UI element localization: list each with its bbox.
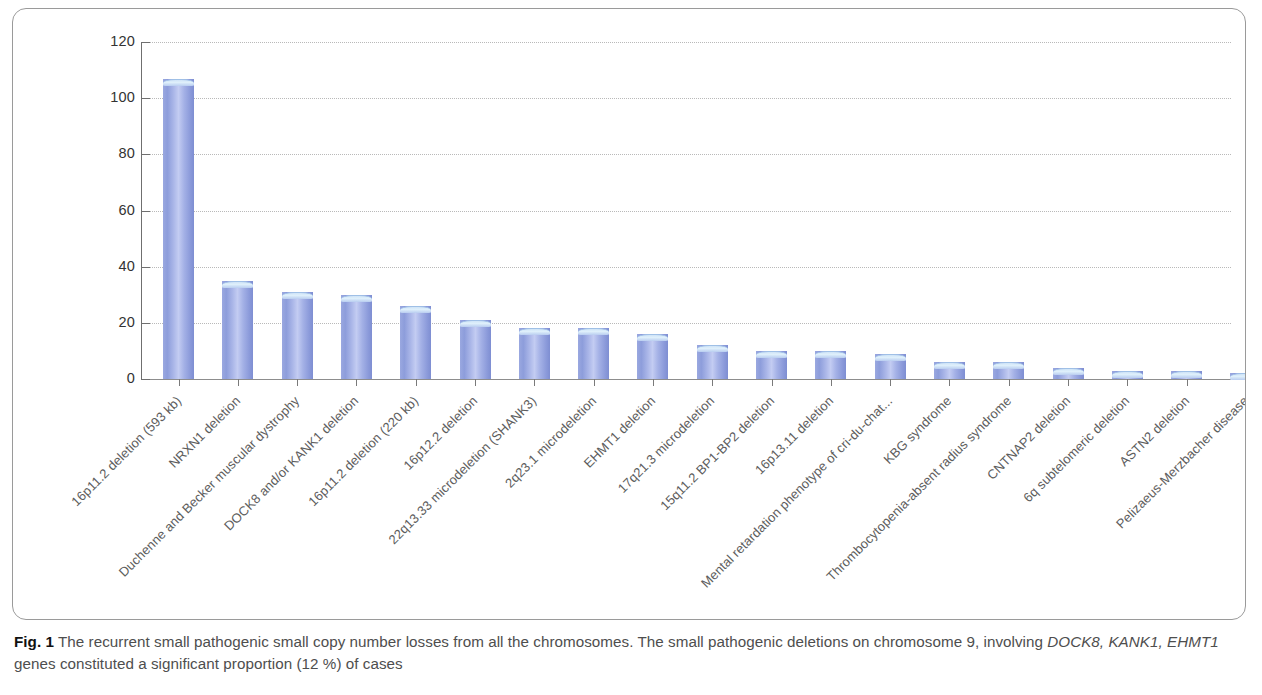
bar-top-cap <box>875 354 906 361</box>
x-tick-mark <box>594 379 595 386</box>
x-tick-mark <box>712 379 713 386</box>
bar <box>400 306 431 379</box>
x-tick-mark <box>949 379 950 386</box>
x-tick-mark <box>890 379 891 386</box>
bar-top-cap <box>993 362 1024 369</box>
bar <box>1053 368 1084 379</box>
caption-label: Fig. 1 <box>14 633 54 650</box>
bar <box>578 328 609 379</box>
bar <box>875 354 906 379</box>
bar <box>934 362 965 379</box>
bar-top-cap <box>637 334 668 341</box>
x-tick-mark <box>416 379 417 386</box>
bar <box>1230 373 1246 379</box>
bar <box>697 345 728 379</box>
bar <box>637 334 668 379</box>
bar-top-cap <box>578 328 609 335</box>
bar-top-cap <box>1230 373 1246 380</box>
bar-top-cap <box>400 306 431 313</box>
x-tick-mark <box>1127 379 1128 386</box>
bar-top-cap <box>282 292 313 299</box>
x-tick-mark <box>772 379 773 386</box>
bar-top-cap <box>163 79 194 86</box>
x-tick-mark <box>1068 379 1069 386</box>
x-tick-mark <box>831 379 832 386</box>
caption-gene-names: DOCK8, KANK1, EHMT1 <box>1047 633 1218 650</box>
x-tick-mark <box>475 379 476 386</box>
caption-text-part-1: The recurrent small pathogenic small cop… <box>58 633 1047 650</box>
bar <box>222 281 253 379</box>
bar-chart-plot: 020406080100120 16p11.2 deletion (593 kb… <box>13 9 1246 620</box>
bar <box>282 292 313 379</box>
bar-top-cap <box>460 320 491 327</box>
bar-top-cap <box>697 345 728 352</box>
figure-caption: Fig. 1 The recurrent small pathogenic sm… <box>14 631 1252 675</box>
bar <box>1112 371 1143 379</box>
x-tick-mark <box>534 379 535 386</box>
bar <box>1171 371 1202 379</box>
bar <box>756 351 787 379</box>
x-tick-mark <box>653 379 654 386</box>
bar-top-cap <box>815 351 846 358</box>
x-tick-mark <box>1187 379 1188 386</box>
bar-top-cap <box>341 295 372 302</box>
bar-top-cap <box>1112 371 1143 378</box>
bar-top-cap <box>519 328 550 335</box>
x-tick-mark <box>297 379 298 386</box>
bar-top-cap <box>934 362 965 369</box>
bar <box>815 351 846 379</box>
figure-frame: 020406080100120 16p11.2 deletion (593 kb… <box>12 8 1246 620</box>
bar-top-cap <box>1053 368 1084 375</box>
bar <box>460 320 491 379</box>
bar-top-cap <box>1171 371 1202 378</box>
caption-text-part-2: genes constituted a significant proporti… <box>14 655 403 672</box>
bar <box>163 79 194 379</box>
x-tick-mark <box>179 379 180 386</box>
x-tick-mark <box>1009 379 1010 386</box>
bar <box>341 295 372 379</box>
x-tick-mark <box>238 379 239 386</box>
bar-top-cap <box>756 351 787 358</box>
bar-top-cap <box>222 281 253 288</box>
bar <box>993 362 1024 379</box>
x-tick-mark <box>356 379 357 386</box>
bar <box>519 328 550 379</box>
